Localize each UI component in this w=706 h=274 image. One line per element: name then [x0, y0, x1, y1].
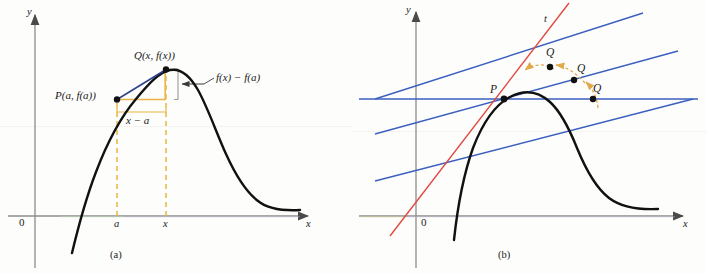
panel-b-x-axis-label: x [683, 219, 688, 230]
figure-secant-tangent: y x 0 a x P(a, f(a)) Q(x, f(x)) x − a f(… [0, 0, 706, 274]
point-q-2 [571, 77, 577, 83]
panel-b-point-p-label: P [490, 84, 497, 96]
panel-b-origin-label: 0 [421, 217, 427, 228]
panel-b-point-q-label-3: Q [593, 83, 601, 95]
panel-a-run-label: x − a [126, 115, 149, 126]
point-q-1 [547, 64, 553, 70]
panel-b-tangent-label: t [544, 14, 547, 25]
panel-b-point-q-label-1: Q [546, 47, 554, 59]
panel-a-point-q-label: Q(x, f(x)) [134, 50, 175, 61]
panel-b-graphic [353, 0, 706, 274]
panel-a-tick-a-label: a [114, 219, 119, 230]
point-q [163, 66, 169, 72]
point-p [114, 96, 120, 102]
panel-b: y x 0 t P Q Q Q (b) [353, 0, 706, 274]
point-q-3 [590, 96, 596, 102]
panel-a-graphic [0, 0, 353, 274]
panel-a-origin-label: 0 [19, 217, 25, 228]
panel-a: y x 0 a x P(a, f(a)) Q(x, f(x)) x − a f(… [0, 0, 353, 274]
panel-a-caption: (a) [110, 250, 122, 261]
panel-b-y-axis-label: y [406, 5, 411, 16]
panel-a-x-axis-label: x [306, 219, 311, 230]
panel-a-point-p-label: P(a, f(a)) [55, 90, 96, 101]
panel-b-point-q-label-2: Q [577, 63, 585, 75]
panel-b-caption: (b) [498, 250, 510, 261]
panel-a-rise-label: f(x) − f(a) [216, 72, 260, 83]
point-p [501, 96, 508, 103]
panel-a-y-axis-label: y [27, 7, 32, 18]
panel-a-tick-x-label: x [163, 219, 168, 230]
